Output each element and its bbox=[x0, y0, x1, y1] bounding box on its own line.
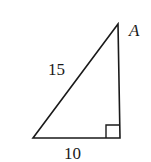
base-length-label: 10 bbox=[64, 144, 81, 162]
right-triangle bbox=[33, 24, 120, 138]
right-angle-marker bbox=[106, 125, 120, 138]
hypotenuse-length-label: 15 bbox=[48, 60, 65, 79]
vertex-label-a: A bbox=[128, 21, 140, 40]
triangle-diagram: A 15 10 bbox=[0, 0, 151, 162]
